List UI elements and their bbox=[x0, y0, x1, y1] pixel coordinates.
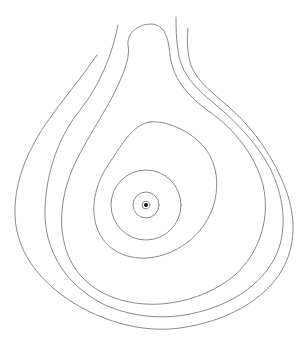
center-point-dot bbox=[144, 203, 148, 207]
contour-2 bbox=[45, 17, 283, 317]
contour-plot bbox=[0, 0, 307, 348]
contour-diagram bbox=[0, 0, 307, 348]
contour-3-knob bbox=[62, 24, 266, 304]
contour-1-outermost bbox=[15, 28, 293, 329]
contour-4-egg bbox=[94, 122, 217, 258]
contour-lines bbox=[15, 17, 293, 329]
